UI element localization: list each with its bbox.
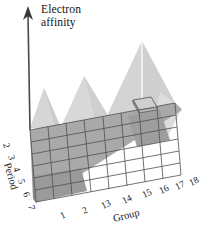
vertical-axis-title: Electron affinity [41,3,121,29]
chart-canvas: 1 2 13 14 15 16 17 18 Group 2 3 4 5 6 7 … [0,0,205,236]
group-axis-title: Group [112,207,141,224]
group-tick-label: 17 [173,179,186,192]
period-tick-label: 7 [26,204,37,212]
group-tick-label: 13 [99,198,112,211]
vertical-axis-title-line1: Electron [41,3,121,16]
period-tick-label: 3 [6,154,17,162]
group-tick-label: 16 [157,183,170,196]
vertical-axis-line [28,16,30,130]
period-tick-label: 6 [21,191,32,199]
group-tick-label: 2 [80,205,89,216]
group-tick-label: 1 [58,210,67,221]
vertical-axis-title-line2: affinity [41,16,121,29]
period-tick-label: 2 [1,142,12,150]
vertical-axis [23,6,33,130]
group-tick-label: 15 [140,187,153,200]
group-tick-label: 14 [120,193,133,206]
electron-affinity-3d-chart: 1 2 13 14 15 16 17 18 Group 2 3 4 5 6 7 … [0,0,205,236]
group-tick-label: 18 [187,175,200,188]
